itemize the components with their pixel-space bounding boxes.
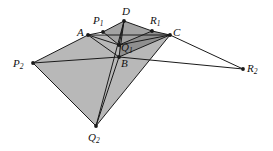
vertex-label-R2: R2	[247, 63, 257, 74]
vertex-dot-P1	[101, 30, 105, 34]
vertex-dot-C	[168, 33, 172, 37]
vertex-dot-R2	[241, 67, 245, 71]
vertex-label-B: B	[121, 58, 128, 69]
vertex-label-subscript-Q1: 1	[129, 46, 133, 55]
vertex-label-Q2: Q2	[88, 132, 100, 143]
vertex-label-P1: P1	[93, 15, 103, 26]
vertex-label-C: C	[173, 27, 180, 38]
vertex-label-subscript-R2: 2	[254, 67, 258, 76]
vertex-label-subscript-P2: 2	[20, 62, 24, 71]
vertex-label-D: D	[122, 6, 130, 17]
vertex-label-subscript-R1: 1	[157, 19, 161, 28]
vertex-dot-A	[86, 33, 90, 37]
vertex-dot-P2	[31, 61, 35, 65]
vertex-dot-Q2	[94, 124, 98, 128]
vertex-label-A: A	[77, 27, 84, 38]
vertex-dot-D	[122, 19, 126, 23]
vertex-label-subscript-Q2: 2	[96, 136, 100, 145]
geometry-figure: ABCDP1R1Q1P2R2Q2	[0, 0, 273, 151]
vertex-label-subscript-P1: 1	[100, 19, 104, 28]
figure-canvas	[0, 0, 273, 151]
vertex-dot-R1	[150, 29, 154, 33]
vertex-label-P2: P2	[13, 58, 23, 69]
vertex-label-R1: R1	[150, 15, 160, 26]
outer-shaded-quad	[33, 35, 170, 126]
segment-C-R2	[170, 35, 243, 69]
vertex-label-Q1: Q1	[121, 42, 133, 53]
